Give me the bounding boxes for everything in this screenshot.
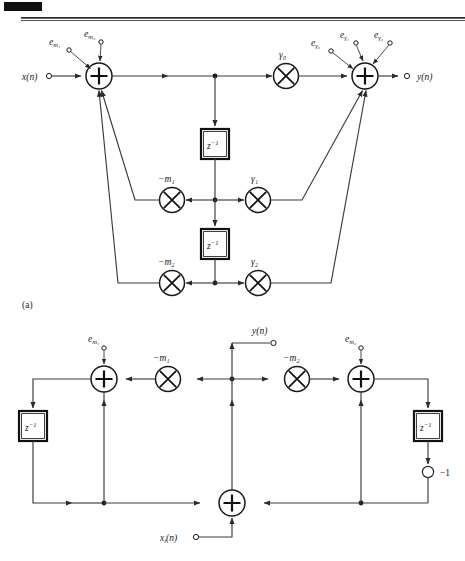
- wire-rightadder-to-delay-b: [374, 379, 428, 408]
- label-neg-m2-b: −m₂: [283, 353, 300, 363]
- wire-leftadder-to-delay-b: [33, 379, 91, 408]
- figure-b: y(n) −m₁ em₁ z−1: [19, 326, 450, 544]
- feedback-negm1-to-adder: [102, 91, 160, 201]
- gain-node-b: [422, 466, 433, 477]
- caption-a: (a): [22, 300, 33, 311]
- wire-input-to-bottom-adder-b: [199, 518, 232, 537]
- feedback-negm2-to-adder: [99, 91, 160, 284]
- corner-tab: [4, 2, 42, 11]
- label-e-gamma0: eγ₀: [311, 38, 321, 49]
- wire-e-m2: [100, 44, 101, 61]
- label-gamma0: γ₀: [279, 50, 286, 60]
- wire-e-gamma0: [333, 53, 353, 69]
- noise-terminal-e-m1: [67, 48, 71, 52]
- wire-e-gamma1: [356, 45, 363, 61]
- label-e-m1-b: em₁: [88, 334, 99, 345]
- label-neg-m1-b: −m₁: [153, 353, 170, 363]
- label-gamma1: γ₁: [251, 174, 258, 184]
- header-rule-thin: [21, 20, 465, 21]
- output-terminal-b: [271, 340, 276, 345]
- header-rule: [21, 17, 465, 19]
- wire-e-gamma2: [373, 45, 389, 64]
- noise-terminal-e-m2-b: [359, 346, 363, 350]
- label-e-gamma2: eγ₂: [374, 30, 384, 41]
- label-output-a: y(n): [416, 72, 432, 83]
- label-neg-m1: −m₁: [158, 174, 175, 184]
- noise-terminal-e-gamma0: [329, 49, 333, 53]
- signal-flow-diagrams: γ₀ y(n) x(n) em₁ em₂ eγ₀: [0, 0, 465, 561]
- label-gain-b: −1: [440, 468, 450, 478]
- label-gamma2: γ₂: [251, 257, 259, 267]
- label-e-gamma1: eγ₁: [340, 30, 349, 41]
- noise-terminal-e-m1-b: [102, 346, 106, 350]
- noise-terminal-e-gamma1: [354, 41, 358, 45]
- feedforward-gamma2-to-adder: [271, 91, 367, 284]
- label-neg-m2: −m₂: [158, 257, 175, 267]
- noise-terminal-e-gamma2: [388, 41, 392, 45]
- label-e-m1: em₁: [49, 37, 60, 48]
- wire-delayleft-to-bottomrail-b: [33, 441, 72, 503]
- label-input-b: xi(n): [159, 533, 177, 544]
- wire-e-m1: [71, 52, 91, 69]
- label-output-b: y(n): [251, 326, 267, 337]
- noise-terminal-e-m2: [99, 40, 103, 44]
- label-e-m2: em₂: [84, 29, 96, 40]
- label-e-m2-b: em₂: [345, 334, 357, 345]
- figure-page: γ₀ y(n) x(n) em₁ em₂ eγ₀: [0, 0, 465, 561]
- input-terminal-b: [193, 534, 198, 539]
- input-terminal-a: [46, 73, 51, 78]
- label-input-a: x(n): [21, 72, 37, 83]
- output-terminal-a: [404, 73, 409, 78]
- figure-a: γ₀ y(n) x(n) em₁ em₂ eγ₀: [21, 29, 432, 311]
